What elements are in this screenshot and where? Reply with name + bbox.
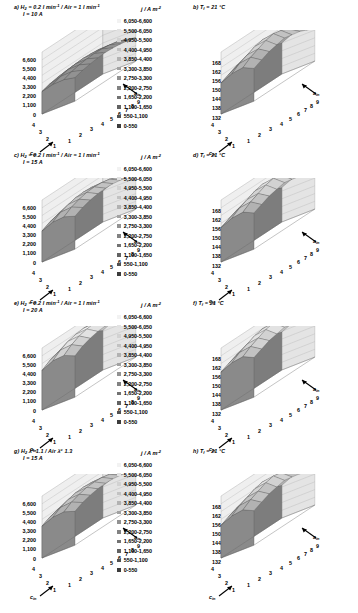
x-tick: 3 bbox=[218, 277, 221, 283]
legend-swatch bbox=[117, 325, 121, 329]
legend-swatch bbox=[117, 38, 121, 42]
legend-item: 6,050-6,600 bbox=[117, 16, 179, 26]
y-tick: 4 bbox=[101, 121, 104, 127]
y-tick: 7 bbox=[304, 255, 307, 261]
legend-swatch bbox=[117, 334, 121, 338]
y-tick: 4 bbox=[101, 269, 104, 275]
y-tick: 5 bbox=[110, 560, 113, 566]
legend-swatch bbox=[117, 124, 121, 128]
legend-label: 2,750-3,300 bbox=[124, 75, 152, 81]
panel-b: b) Tf = 21 °C168162156150144138132432112… bbox=[179, 0, 358, 148]
y-tick: 3 bbox=[90, 274, 93, 280]
y-tick: 1 bbox=[68, 138, 71, 144]
panel-title-f: f) Tf = 21 °C bbox=[193, 300, 333, 307]
legend-item: 1,650-2,200 bbox=[117, 93, 179, 103]
legend-swatch bbox=[117, 353, 121, 357]
y-tick: 2 bbox=[79, 576, 82, 582]
legend-title: j / A m-2 bbox=[123, 302, 179, 308]
panel-title-h: h) Tf = 21 °C bbox=[193, 448, 333, 455]
y-tick: 5 bbox=[110, 412, 113, 418]
legend-label: 6,050-6,600 bbox=[124, 166, 152, 172]
panel-title-b: b) Tf = 21 °C bbox=[193, 4, 333, 11]
legend-label: 3,300-3,850 bbox=[124, 362, 152, 368]
y-tick: 1 bbox=[68, 286, 71, 292]
legend-swatch bbox=[117, 501, 121, 505]
legend-label: 4,400-4,950 bbox=[124, 195, 152, 201]
y-tick: 8 bbox=[310, 547, 313, 553]
legend-swatch bbox=[117, 215, 121, 219]
legend-label: 0-550 bbox=[124, 123, 138, 129]
legend-label: 1,100-1,650 bbox=[124, 104, 152, 110]
legend-swatch bbox=[117, 96, 121, 100]
legend-item: 1,650-2,200 bbox=[117, 389, 179, 399]
legend-label: 6,050-6,600 bbox=[124, 314, 152, 320]
legend-item: 4,400-4,950 bbox=[117, 45, 179, 55]
y-tick: 5 bbox=[289, 560, 292, 566]
legend-label: 2,750-3,300 bbox=[124, 223, 152, 229]
y-tick: 1 bbox=[247, 582, 250, 588]
legend-item: 2,750-3,300 bbox=[117, 369, 179, 379]
legend-label: 5,500-6,050 bbox=[124, 176, 152, 182]
legend-item: 2,200-2,750 bbox=[117, 231, 179, 241]
legend-label: 3,850-4,400 bbox=[124, 204, 152, 210]
legend-item: 3,300-3,850 bbox=[117, 360, 179, 370]
legend-item: 550-1,100 bbox=[117, 260, 179, 270]
legend-swatch bbox=[117, 530, 121, 534]
legend-swatch bbox=[117, 263, 121, 267]
y-tick: 1 bbox=[247, 286, 250, 292]
legend-label: 550-1,100 bbox=[124, 409, 148, 415]
legend-swatch bbox=[117, 196, 121, 200]
legend-label: 1,100-1,650 bbox=[124, 548, 152, 554]
legend-item: 2,200-2,750 bbox=[117, 83, 179, 93]
y-tick: 9 bbox=[316, 247, 319, 253]
legend-label: 4,950-5,500 bbox=[124, 37, 152, 43]
x-tick: 3 bbox=[218, 573, 221, 579]
legend-label: 1,650-2,200 bbox=[124, 242, 152, 248]
y-tick: 4 bbox=[280, 565, 283, 571]
legend-item: 2,750-3,300 bbox=[117, 221, 179, 231]
legend-label: 1,650-2,200 bbox=[124, 538, 152, 544]
legend-label: 4,400-4,950 bbox=[124, 47, 152, 53]
legend-item: 6,050-6,600 bbox=[117, 164, 179, 174]
legend-item: 3,300-3,850 bbox=[117, 508, 179, 518]
legend-item: 3,850-4,400 bbox=[117, 498, 179, 508]
legend-label: 3,850-4,400 bbox=[124, 352, 152, 358]
y-tick: 4 bbox=[101, 417, 104, 423]
legend-swatch bbox=[117, 86, 121, 90]
legend-item: 2,200-2,750 bbox=[117, 527, 179, 537]
y-tick: 3 bbox=[269, 126, 272, 132]
x-axis-arrow bbox=[217, 584, 237, 598]
legend-label: 2,200-2,750 bbox=[124, 85, 152, 91]
legend-swatch bbox=[117, 234, 121, 238]
x-axis-arrow bbox=[38, 584, 58, 598]
legend-item: 2,750-3,300 bbox=[117, 517, 179, 527]
legend-swatch bbox=[117, 482, 121, 486]
legend-item: 4,400-4,950 bbox=[117, 341, 179, 351]
legend-title: j / A m-2 bbox=[123, 154, 179, 160]
legend-item: 4,950-5,500 bbox=[117, 183, 179, 193]
legend-item: 5,500-6,050 bbox=[117, 26, 179, 36]
legend-g: j / A m-26,050-6,6005,500-6,0504,950-5,5… bbox=[117, 450, 179, 575]
legend-swatch bbox=[117, 315, 121, 319]
x-tick: 3 bbox=[218, 425, 221, 431]
legend-label: 4,400-4,950 bbox=[124, 343, 152, 349]
legend-swatch bbox=[117, 382, 121, 386]
legend-item: 1,100-1,650 bbox=[117, 102, 179, 112]
legend-swatch bbox=[117, 372, 121, 376]
x-tick: 4 bbox=[211, 418, 214, 424]
legend-e: j / A m-26,050-6,6005,500-6,0504,950-5,5… bbox=[117, 302, 179, 427]
y-tick: 8 bbox=[310, 103, 313, 109]
legend-label: 2,750-3,300 bbox=[124, 519, 152, 525]
legend-label: 1,650-2,200 bbox=[124, 390, 152, 396]
y-tick: 5 bbox=[289, 412, 292, 418]
legend-label: 6,050-6,600 bbox=[124, 18, 152, 24]
legend-c: j / A m-26,050-6,6005,500-6,0504,950-5,5… bbox=[117, 154, 179, 279]
x-tick: 3 bbox=[39, 425, 42, 431]
y-tick: 7 bbox=[304, 107, 307, 113]
legend-label: 2,750-3,300 bbox=[124, 371, 152, 377]
y-tick: 1 bbox=[68, 434, 71, 440]
legend-item: 6,050-6,600 bbox=[117, 312, 179, 322]
legend-label: 550-1,100 bbox=[124, 261, 148, 267]
y-tick: 3 bbox=[90, 570, 93, 576]
y-tick: 4 bbox=[280, 121, 283, 127]
